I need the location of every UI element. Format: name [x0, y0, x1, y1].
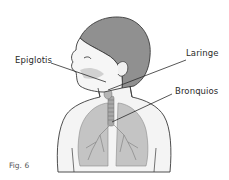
figure-caption: Fig. 6: [9, 161, 29, 170]
label-bronquios: Bronquios: [175, 86, 218, 96]
label-laringe: Laringe: [186, 48, 219, 58]
label-epiglotis: Epiglotis: [15, 55, 52, 65]
